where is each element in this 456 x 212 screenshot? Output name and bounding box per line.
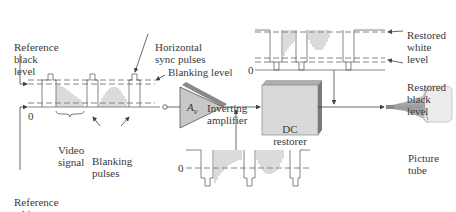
label-inverting-amplifier: Invertingamplifier (207, 78, 247, 138)
label-amp-gain: Av (187, 101, 197, 118)
label-restored-black-level: Restoredblacklevel (407, 57, 446, 129)
label-blanking-pulses: Blankingpulses (92, 131, 132, 191)
label-video-signal: Videosignal (58, 120, 84, 180)
sync-pulse-arrow (135, 34, 148, 72)
restored-waveform (255, 30, 385, 70)
input-terminal (163, 105, 167, 109)
label-reference-white-level: Referencewhitelevel (14, 172, 59, 212)
label-picture-tube: Picturetube (408, 128, 439, 188)
label-reference-black-level: Referenceblacklevel (14, 17, 59, 89)
label-blanking-level: Blanking level (168, 66, 232, 78)
video-brace (56, 111, 84, 117)
label-zero-bottom: 0 (178, 162, 184, 174)
ref-white-arrow (20, 107, 27, 170)
label-zero-right: 0 (248, 64, 254, 76)
label-dc-restorer: DCrestorer (272, 99, 308, 159)
label-zero-left: 0 (28, 110, 34, 122)
